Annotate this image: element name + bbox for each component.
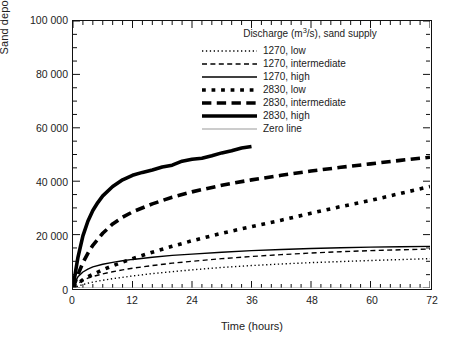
legend-label: 1270, low [263, 45, 306, 56]
legend-swatch [196, 71, 263, 83]
legend-swatch [196, 110, 263, 122]
legend-label: 1270, intermediate [263, 58, 346, 69]
x-tick-label: 72 [426, 294, 438, 306]
legend-swatch [196, 58, 263, 70]
series-line [73, 146, 252, 288]
legend-label: 2830, high [263, 110, 310, 121]
legend-swatch [196, 45, 263, 57]
legend-swatch [196, 84, 263, 96]
legend-label: 1270, high [263, 71, 310, 82]
y-axis-tick-labels: 020 00040 00060 00080 000100 000 [0, 20, 68, 290]
y-tick-label: 60 000 [36, 122, 68, 134]
y-tick-label: 100 000 [30, 14, 68, 26]
legend-title: Discharge (m3/s), sand supply [196, 26, 424, 39]
x-axis-label: Time (hours) [72, 320, 432, 332]
legend-swatch [196, 97, 263, 109]
y-tick-label: 20 000 [36, 230, 68, 242]
legend-item: 1270, low [196, 44, 424, 57]
legend-label: 2830, intermediate [263, 97, 346, 108]
x-tick-label: 36 [246, 294, 258, 306]
x-tick-label: 12 [126, 294, 138, 306]
legend-label: 2830, low [263, 84, 306, 95]
legend-label: Zero line [263, 123, 302, 134]
y-tick-label: 0 [62, 284, 68, 296]
x-tick-label: 0 [69, 294, 75, 306]
legend-swatch [196, 123, 263, 135]
legend-item: 2830, low [196, 83, 424, 96]
chart-figure: 020 00040 00060 00080 000100 000 Sand de… [0, 0, 450, 347]
x-tick-label: 48 [306, 294, 318, 306]
legend-item: 1270, intermediate [196, 57, 424, 70]
legend-item: 2830, high [196, 109, 424, 122]
y-tick-label: 80 000 [36, 68, 68, 80]
legend: Discharge (m3/s), sand supply 1270, low1… [196, 26, 424, 135]
x-tick-label: 24 [186, 294, 198, 306]
legend-item: Zero line [196, 122, 424, 135]
legend-item: 1270, high [196, 70, 424, 83]
y-axis-label: Sand deposit volume (m3) [0, 0, 10, 80]
legend-item: 2830, intermediate [196, 96, 424, 109]
y-tick-label: 40 000 [36, 176, 68, 188]
x-tick-label: 60 [366, 294, 378, 306]
series-line [73, 187, 430, 288]
